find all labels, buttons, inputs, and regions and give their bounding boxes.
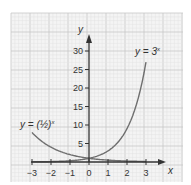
x-tick-label: −1 [65, 168, 75, 178]
x-tick-label: −3 [27, 168, 37, 178]
x-tick-label: 0 [86, 168, 91, 178]
x-axis-label: x [167, 165, 174, 176]
y-tick-label: 30 [73, 46, 83, 56]
exponential-graph: −3−2−1012351015202530 y x y = 3x y = (½)… [0, 0, 191, 185]
y-tick-label: 5 [78, 139, 83, 149]
y-tick-label: 25 [73, 65, 83, 75]
y-tick-label: 15 [73, 102, 83, 112]
x-tick-label: −2 [46, 168, 56, 178]
y-axis-label: y [77, 24, 84, 35]
y-tick-label: 10 [73, 120, 83, 130]
y-tick-label: 20 [73, 83, 83, 93]
series-label-3x: y = 3x [134, 46, 161, 57]
x-tick-label: 3 [143, 168, 148, 178]
x-tick-label: 1 [105, 168, 110, 178]
x-tick-label: 2 [124, 168, 129, 178]
series-label-half-x: y = (½)x [19, 119, 55, 130]
